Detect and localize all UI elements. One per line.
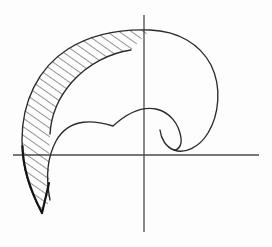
figure-canvas xyxy=(0,0,272,247)
line-drawing-svg xyxy=(0,0,272,247)
scallop-profile-outline xyxy=(48,108,181,200)
